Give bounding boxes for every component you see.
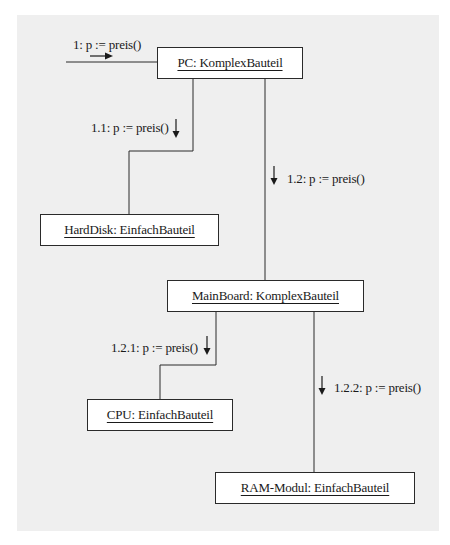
object-label: HardDisk: EinfachBauteil bbox=[64, 222, 195, 238]
object-label: MainBoard: KomplexBauteil bbox=[192, 288, 339, 304]
message-1-2-1: 1.2.1: p := preis() bbox=[111, 340, 198, 356]
message-1: 1: p := preis() bbox=[73, 37, 141, 53]
object-mainboard: MainBoard: KomplexBauteil bbox=[167, 280, 364, 312]
object-pc: PC: KomplexBauteil bbox=[157, 47, 303, 79]
object-harddisk: HardDisk: EinfachBauteil bbox=[40, 214, 219, 246]
arrow-down-icon bbox=[319, 376, 326, 395]
object-label: CPU: EinfachBauteil bbox=[107, 407, 213, 423]
message-1-2: 1.2: p := preis() bbox=[287, 171, 365, 187]
object-ram-modul: RAM-Modul: EinfachBauteil bbox=[215, 472, 415, 504]
arrow-down-icon bbox=[271, 166, 278, 185]
arrow-right-icon bbox=[90, 53, 113, 60]
object-label: PC: KomplexBauteil bbox=[177, 55, 282, 71]
object-label: RAM-Modul: EinfachBauteil bbox=[241, 480, 389, 496]
arrow-down-icon bbox=[204, 336, 211, 355]
arrow-down-icon bbox=[173, 119, 180, 138]
object-cpu: CPU: EinfachBauteil bbox=[87, 399, 233, 431]
message-1-2-2: 1.2.2: p := preis() bbox=[334, 380, 421, 396]
connector-lines bbox=[0, 0, 450, 545]
message-1-1: 1.1: p := preis() bbox=[91, 120, 169, 136]
